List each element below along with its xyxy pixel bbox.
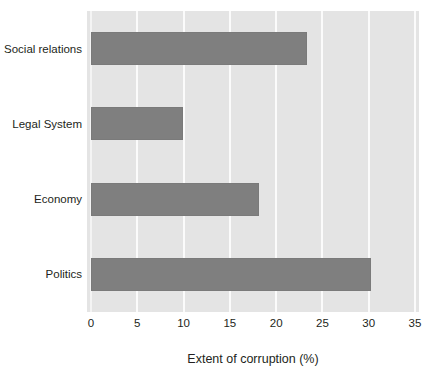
x-axis-tick-10: 10	[177, 316, 190, 330]
x-axis-tick-35: 35	[409, 316, 422, 330]
x-axis-tick-25: 25	[316, 316, 329, 330]
y-axis-label-social-relations: Social relations	[4, 43, 82, 55]
bar-legal-system	[91, 107, 183, 140]
bar-economy	[91, 183, 259, 216]
x-axis-title: Extent of corruption (%)	[87, 352, 419, 366]
plot-area	[87, 11, 419, 312]
x-axis-tick-30: 30	[362, 316, 375, 330]
x-axis-tick-labels: 05101520253035	[87, 316, 419, 334]
x-axis-tick-0: 0	[88, 316, 94, 330]
x-axis-tick-5: 5	[134, 316, 140, 330]
bars-layer	[87, 11, 419, 312]
y-axis-label-politics: Politics	[46, 268, 82, 280]
x-axis-tick-20: 20	[270, 316, 283, 330]
y-axis-label-legal-system: Legal System	[12, 118, 82, 130]
y-axis-category-labels: PoliticsEconomyLegal SystemSocial relati…	[0, 11, 82, 312]
x-axis-tick-15: 15	[223, 316, 236, 330]
bar-social-relations	[91, 32, 307, 65]
bar-chart: PoliticsEconomyLegal SystemSocial relati…	[0, 0, 438, 383]
bar-politics	[91, 258, 371, 291]
chart-title-remnant	[70, 0, 270, 2]
y-axis-label-economy: Economy	[34, 193, 82, 205]
